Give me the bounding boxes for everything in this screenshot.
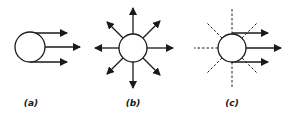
panel-label-c: (c) [225,98,239,108]
panel-c: (c) [194,8,281,108]
arrow-down-left-icon [107,58,123,74]
circle-icon [119,34,147,62]
panel-b: (b) [95,8,173,108]
arrow-down-right-icon [143,58,160,75]
panel-label-a: (a) [24,98,38,108]
arrow-up-left-icon [107,22,123,38]
circle-icon [218,34,246,62]
panel-a: (a) [15,32,80,108]
panel-label-b: (b) [126,98,141,108]
arrow-up-right-icon [143,21,160,38]
diagram-canvas: (a) (b) (c) [0,0,296,115]
circle-icon [15,32,45,62]
